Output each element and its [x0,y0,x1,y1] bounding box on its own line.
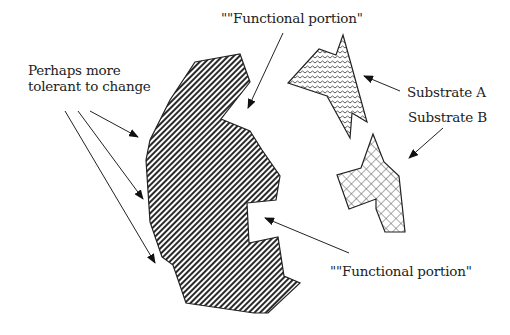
substrate-a-label: Substrate A [407,84,486,100]
functional-portion-bottom-label: ""Functional portion" [330,263,472,279]
functional-top-arrow [248,33,283,108]
enzyme-body-shape [146,54,300,313]
tolerant-arrow-2 [78,111,143,199]
tolerant-label-line1: Perhaps more [28,62,121,78]
tolerant-arrow-3 [65,111,155,263]
diagram-canvas [0,0,510,335]
substrate-b-label: Substrate B [408,109,487,125]
substrate-b-arrow [409,128,443,158]
substrate-a-shape [288,35,367,138]
functional-portion-top-label: ""Functional portion" [221,10,363,26]
tolerant-arrow-1 [90,111,138,137]
substrate-a-arrow [364,76,400,91]
tolerant-arrows [65,111,155,263]
tolerant-label-line2: tolerant to change [28,78,151,94]
substrate-b-shape [337,134,405,232]
